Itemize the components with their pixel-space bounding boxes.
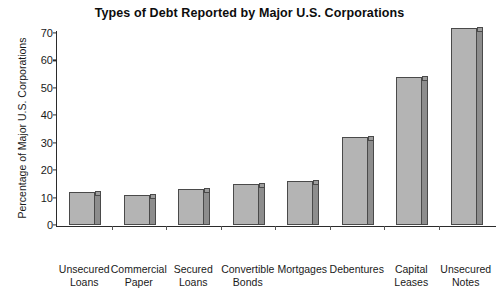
x-tick-mark-2 bbox=[166, 226, 167, 230]
x-label-line-2: Bonds bbox=[217, 276, 280, 288]
bar-side-face bbox=[204, 192, 210, 225]
bar-convertible-bonds bbox=[233, 184, 265, 225]
y-tick-mark-70 bbox=[53, 32, 57, 33]
y-tick-mark-10 bbox=[53, 197, 57, 198]
y-tick-label-70: 70 bbox=[41, 27, 53, 39]
y-tick-mark-0 bbox=[53, 224, 57, 225]
x-tick-mark-6 bbox=[384, 226, 385, 230]
x-tick-mark-4 bbox=[275, 226, 276, 230]
bar-face bbox=[233, 184, 259, 225]
plot-area: 010203040506070 UnsecuredLoansCommercial… bbox=[57, 33, 493, 225]
bar-side-face bbox=[95, 195, 101, 225]
x-label-line-1: Unsecured bbox=[435, 263, 498, 276]
bar-top-face bbox=[368, 136, 374, 140]
bar-top-face bbox=[204, 188, 210, 192]
x-tick-mark-5 bbox=[330, 226, 331, 230]
bar-top-face bbox=[422, 76, 428, 80]
bar-face bbox=[342, 137, 368, 225]
x-label-debentures: Debentures bbox=[326, 263, 389, 276]
bar-side-face bbox=[259, 187, 265, 225]
x-label-line-2: Paper bbox=[108, 276, 171, 288]
bar-capital-leases bbox=[396, 77, 428, 225]
y-tick-label-30: 30 bbox=[41, 137, 53, 149]
x-label-convertible-bonds: ConvertibleBonds bbox=[217, 263, 280, 288]
bar-face bbox=[396, 77, 422, 225]
x-label-line-1: Convertible bbox=[217, 263, 280, 276]
y-tick-mark-20 bbox=[53, 170, 57, 171]
x-label-line-2: Notes bbox=[435, 276, 498, 288]
bar-side-face bbox=[313, 184, 319, 225]
x-label-capital-leases: CapitalLeases bbox=[380, 263, 443, 288]
x-label-unsecured-notes: UnsecuredNotes bbox=[435, 263, 498, 288]
bar-face bbox=[124, 195, 150, 225]
x-label-line-1: Capital bbox=[380, 263, 443, 276]
bar-commercial-paper bbox=[124, 195, 156, 225]
bar-unsecured-loans bbox=[69, 192, 101, 225]
bar-side-face bbox=[477, 31, 483, 225]
x-label-unsecured-loans: UnsecuredLoans bbox=[53, 263, 116, 288]
x-label-commercial-paper: CommercialPaper bbox=[108, 263, 171, 288]
bar-face bbox=[178, 189, 204, 225]
bar-debentures bbox=[342, 137, 374, 225]
bar-secured-loans bbox=[178, 189, 210, 225]
x-tick-mark-7 bbox=[439, 226, 440, 230]
y-tick-label-10: 10 bbox=[41, 192, 53, 204]
y-tick-mark-40 bbox=[53, 115, 57, 116]
x-label-line-2: Leases bbox=[380, 276, 443, 288]
x-label-mortgages: Mortgages bbox=[271, 263, 334, 276]
y-tick-label-50: 50 bbox=[41, 82, 53, 94]
y-tick-mark-60 bbox=[53, 60, 57, 61]
bar-top-face bbox=[259, 183, 265, 187]
bar-side-face bbox=[368, 140, 374, 225]
bar-side-face bbox=[150, 198, 156, 225]
x-label-line-1: Unsecured bbox=[53, 263, 116, 276]
x-label-secured-loans: SecuredLoans bbox=[162, 263, 225, 288]
x-label-line-2: Loans bbox=[162, 276, 225, 288]
bar-unsecured-notes bbox=[451, 28, 483, 225]
y-tick-label-60: 60 bbox=[41, 54, 53, 66]
y-tick-mark-30 bbox=[53, 142, 57, 143]
bar-top-face bbox=[95, 191, 101, 195]
x-label-line-1: Secured bbox=[162, 263, 225, 276]
chart-title: Types of Debt Reported by Major U.S. Cor… bbox=[0, 6, 499, 20]
y-tick-label-20: 20 bbox=[41, 164, 53, 176]
x-tick-mark-3 bbox=[221, 226, 222, 230]
y-tick-mark-50 bbox=[53, 87, 57, 88]
bar-face bbox=[287, 181, 313, 225]
x-tick-mark-1 bbox=[112, 226, 113, 230]
y-tick-label-40: 40 bbox=[41, 109, 53, 121]
x-label-line-1: Mortgages bbox=[271, 263, 334, 276]
y-axis-title: Percentage of Major U.S. Corporations bbox=[16, 28, 28, 228]
bar-mortgages bbox=[287, 181, 319, 225]
bar-face bbox=[69, 192, 95, 225]
x-label-line-2: Loans bbox=[53, 276, 116, 288]
bar-face bbox=[451, 28, 477, 225]
bar-top-face bbox=[313, 180, 319, 184]
bar-top-face bbox=[477, 27, 483, 31]
bar-top-face bbox=[150, 194, 156, 198]
x-label-line-1: Commercial bbox=[108, 263, 171, 276]
bar-side-face bbox=[422, 80, 428, 225]
x-label-line-1: Debentures bbox=[326, 263, 389, 276]
